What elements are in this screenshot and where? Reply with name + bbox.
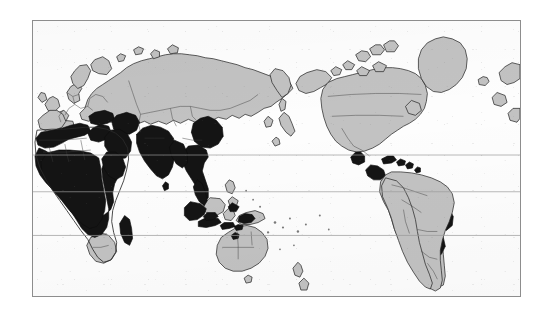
world-map — [33, 21, 520, 296]
map-frame — [32, 20, 521, 297]
figure-root — [0, 0, 547, 317]
